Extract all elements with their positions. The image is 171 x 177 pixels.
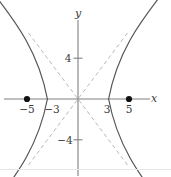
hyperbola-curves bbox=[0, 0, 160, 177]
focus-right-point bbox=[126, 96, 132, 102]
x-axis-label: x bbox=[151, 92, 158, 105]
y-axis-label: y bbox=[74, 7, 82, 20]
x-tick-label-neg-3: −3 bbox=[44, 103, 59, 115]
hyperbola-figure: y x −5 −3 3 5 4 −4 bbox=[0, 0, 171, 177]
x-tick-label-pos-5: 5 bbox=[126, 103, 133, 115]
x-tick-label-pos-3: 3 bbox=[104, 103, 111, 115]
hyperbola-left-branch bbox=[0, 0, 47, 177]
focus-left-point bbox=[24, 96, 30, 102]
y-tick-label-neg-4: −4 bbox=[57, 134, 73, 146]
x-tick-label-neg-5: −5 bbox=[19, 103, 34, 115]
plot-canvas: y x −5 −3 3 5 4 −4 bbox=[0, 0, 171, 177]
y-tick-label-pos-4: 4 bbox=[65, 52, 72, 64]
hyperbola-right-branch bbox=[109, 0, 160, 177]
